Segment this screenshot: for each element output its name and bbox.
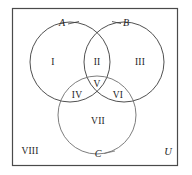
universal-set-rectangle <box>13 9 178 166</box>
venn-diagram-canvas <box>0 0 192 175</box>
venn-diagram-figure: A B C I II III IV V VI VII VIII U <box>0 0 192 175</box>
